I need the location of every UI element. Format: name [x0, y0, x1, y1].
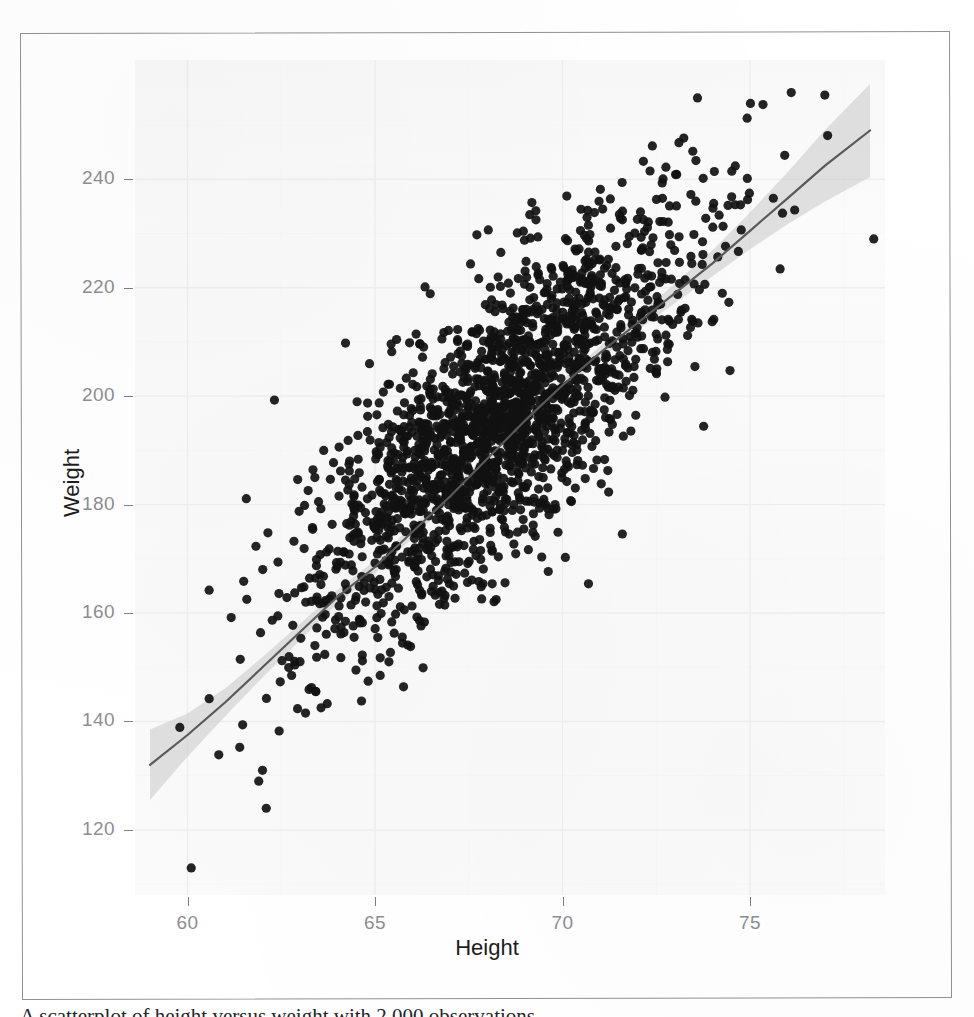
figure-border: [20, 31, 952, 1000]
scanned-page: 120140160180200220240 60657075 Weight He…: [0, 0, 974, 1017]
figure-caption: A scatterplot of height versus weight wi…: [20, 1006, 950, 1017]
